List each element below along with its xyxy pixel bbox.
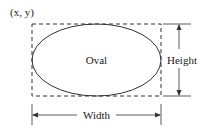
width-label: Width (83, 109, 111, 121)
height-label: Height (167, 54, 197, 66)
oval-diagram: (x, y) Oval Height Width (0, 0, 203, 131)
origin-label: (x, y) (10, 6, 34, 19)
shape-label: Oval (86, 54, 107, 66)
